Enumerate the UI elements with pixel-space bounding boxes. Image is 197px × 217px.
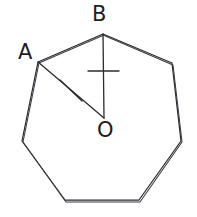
vertex-label-a: A: [18, 42, 32, 63]
congruence-tick-oa-icon: [60, 80, 82, 101]
heptagon-outline: [22, 34, 181, 200]
geometry-canvas: [0, 0, 197, 217]
vertex-label-b: B: [92, 4, 106, 25]
geometry-figure: A B O: [0, 0, 197, 217]
center-label-o: O: [97, 120, 114, 141]
radius-ob-segment: [103, 34, 104, 118]
